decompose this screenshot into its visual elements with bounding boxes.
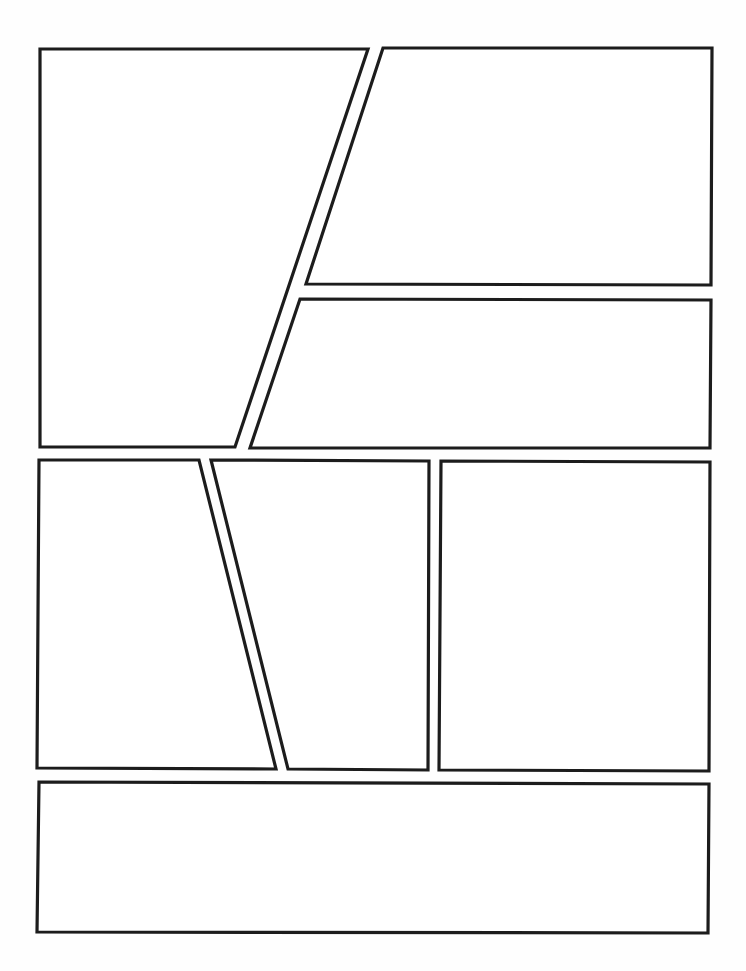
- panel-7: [37, 782, 709, 933]
- comic-page: [0, 0, 746, 971]
- panel-2: [306, 48, 712, 285]
- panel-6: [439, 461, 710, 771]
- panel-layout: [0, 0, 746, 971]
- panel-3: [250, 299, 711, 448]
